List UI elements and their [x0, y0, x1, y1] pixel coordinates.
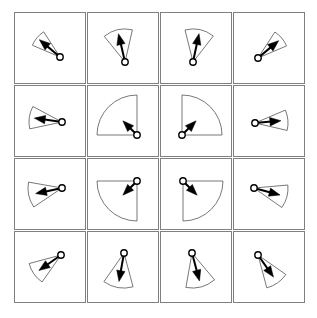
apex-marker [180, 178, 186, 184]
sector-grid-figure [0, 0, 317, 318]
cell-r1-c3 [234, 86, 305, 157]
apex-marker [252, 120, 258, 126]
cell-r3-c1 [88, 232, 159, 303]
sector-grid-canvas [0, 0, 317, 318]
cell-frame [88, 13, 159, 84]
cell-r3-c2 [161, 232, 232, 303]
cell-frame [88, 232, 159, 303]
apex-marker [134, 132, 140, 138]
cell-r3-c0 [15, 232, 86, 303]
apex-marker [121, 250, 127, 256]
cell-r0-c3 [234, 13, 305, 84]
cell-r2-c3 [234, 159, 305, 230]
apex-marker [251, 185, 257, 191]
cell-r3-c3 [234, 232, 305, 303]
apex-marker [122, 59, 128, 65]
cell-frame [15, 159, 86, 230]
cell-r2-c2 [161, 159, 232, 230]
apex-marker [189, 250, 195, 256]
cell-r1-c2 [161, 86, 232, 157]
cell-r0-c1 [88, 13, 159, 84]
apex-marker [190, 59, 196, 65]
cell-r1-c0 [15, 86, 86, 157]
apex-marker [57, 54, 63, 60]
cell-r2-c0 [15, 159, 86, 230]
apex-marker [179, 132, 185, 138]
cell-r0-c2 [161, 13, 232, 84]
cell-r2-c1 [88, 159, 159, 230]
cell-r1-c1 [88, 86, 159, 157]
apex-marker [59, 119, 65, 125]
apex-marker [255, 55, 261, 61]
apex-marker [134, 178, 140, 184]
apex-marker [59, 185, 65, 191]
apex-marker [255, 252, 261, 258]
apex-marker [58, 252, 64, 258]
cell-r0-c0 [15, 13, 86, 84]
